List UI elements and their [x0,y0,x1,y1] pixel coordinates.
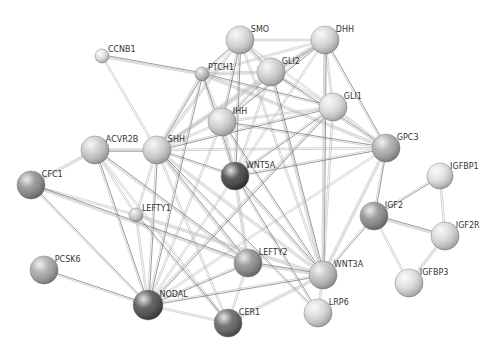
node-highlight [304,299,332,327]
node-cfc1[interactable]: CFC1 [17,170,63,199]
node-highlight [129,208,143,222]
node-highlight [372,134,400,162]
node-highlight [319,93,347,121]
node-igf2r[interactable]: IGF2R [431,221,480,250]
node-label: PTCH1 [208,63,234,72]
network-diagram: CCNB1PTCH1SMODHHGLI2GLI1IHHSHHACVR2BGPC3… [0,0,493,355]
node-layer: CCNB1PTCH1SMODHHGLI2GLI1IHHSHHACVR2BGPC3… [17,25,480,337]
node-highlight [81,136,109,164]
edge-lefty1-wnt3a [136,214,324,276]
node-gli2[interactable]: GLI2 [257,57,300,86]
node-highlight [143,136,171,164]
node-label: PCSK6 [55,255,81,264]
node-smo[interactable]: SMO [226,25,269,54]
node-cer1[interactable]: CER1 [214,308,260,337]
network-canvas: CCNB1PTCH1SMODHHGLI2GLI1IHHSHHACVR2BGPC3… [0,0,493,355]
node-igfbp1[interactable]: IGFBP1 [427,162,479,189]
node-label: IGFBP1 [450,162,479,171]
node-highlight [427,163,453,189]
node-highlight [257,58,285,86]
node-label: SHH [168,135,185,144]
node-highlight [30,256,58,284]
node-label: LEFTY1 [142,204,171,213]
node-highlight [431,222,459,250]
node-label: NODAL [160,290,189,299]
node-highlight [133,290,163,320]
node-label: WNT3A [334,260,364,269]
node-gli1[interactable]: GLI1 [319,92,362,121]
node-highlight [17,171,45,199]
node-ihh[interactable]: IHH [208,107,247,136]
node-highlight [221,162,249,190]
node-highlight [226,26,254,54]
node-lrp6[interactable]: LRP6 [304,298,349,327]
node-ptch1[interactable]: PTCH1 [195,63,234,81]
node-label: WNT5A [246,161,276,170]
node-label: IGF2R [456,221,480,230]
node-highlight [195,67,209,81]
node-ccnb1[interactable]: CCNB1 [95,45,136,63]
node-label: GLI1 [344,92,362,101]
node-label: ACVR2B [106,135,139,144]
edge-pcsk6-nodal [44,269,149,306]
node-wnt3a[interactable]: WNT3A [309,260,364,289]
node-label: DHH [336,25,354,34]
edge-ccnb1-ptch1 [102,55,202,75]
node-highlight [360,202,388,230]
node-igf2[interactable]: IGF2 [360,201,403,230]
node-igfbp3[interactable]: IGFBP3 [395,268,448,297]
node-label: GPC3 [397,133,419,142]
node-label: LEFTY2 [259,248,288,257]
node-label: IHH [233,107,247,116]
node-highlight [395,269,423,297]
node-highlight [208,108,236,136]
node-gpc3[interactable]: GPC3 [372,133,419,162]
edge-wnt5a-lrp6 [234,176,318,314]
node-highlight [214,309,242,337]
node-label: CFC1 [42,170,63,179]
node-nodal[interactable]: NODAL [133,290,188,320]
node-shh[interactable]: SHH [143,135,185,164]
node-label: CER1 [239,308,260,317]
node-label: LRP6 [329,298,349,307]
node-highlight [309,261,337,289]
node-highlight [311,26,339,54]
node-highlight [234,249,262,277]
node-label: CCNB1 [108,45,136,54]
node-dhh[interactable]: DHH [311,25,354,54]
node-label: IGF2 [385,201,403,210]
node-label: IGFBP3 [420,268,449,277]
node-label: SMO [251,25,269,34]
node-label: GLI2 [282,57,300,66]
node-highlight [95,49,109,63]
edge-acvr2b-nodal [94,150,149,306]
node-pcsk6[interactable]: PCSK6 [30,255,81,284]
